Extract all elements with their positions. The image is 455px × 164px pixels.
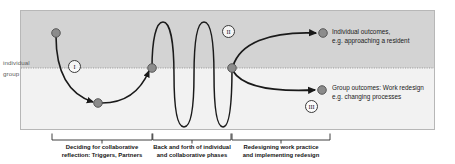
phase-caption-1: Deciding for collaborative reflection: T… [52,143,152,159]
phase-3-line2: and implementing redesign [231,151,331,159]
phase-3-line1: Redesigning work practice [231,143,331,151]
band-label-group: group [3,70,19,78]
bracket-phase-2 [153,134,231,144]
outcome-individual-line1: Individual outcomes, [332,27,409,36]
phase-caption-2: Back and forth of individual and collabo… [150,143,234,159]
stage-marker-iii: III [305,100,318,113]
phase-caption-3: Redesigning work practice and implementi… [231,143,331,159]
stage-marker-i: I [68,60,81,73]
node-decide [94,99,103,108]
phase-1-line1: Deciding for collaborative [52,143,152,151]
bracket-phase-1 [52,134,152,144]
phase-2-line1: Back and forth of individual [150,143,234,151]
stage-marker-ii: II [222,25,235,38]
node-start [52,29,61,38]
node-exit-oscillation [228,64,237,73]
process-diagram: individual group I II III Individual out… [0,0,455,164]
node-enter-oscillation [148,64,157,73]
outcome-label-group: Group outcomes: Work redesign e.g. chang… [332,83,424,101]
node-individual-outcome [319,29,328,38]
phase-2-line2: and collaborative phases [150,151,234,159]
outcome-group-line2: e.g. changing processes [332,92,424,101]
bracket-phase-3 [232,134,330,144]
outcome-group-line1: Group outcomes: Work redesign [332,83,424,92]
band-label-individual: individual [3,59,30,67]
phase-1-line2: reflection: Triggers, Partners [52,151,152,159]
outcome-label-individual: Individual outcomes, e.g. approaching a … [332,27,409,45]
outcome-individual-line2: e.g. approaching a resident [332,36,409,45]
node-group-outcome [318,86,327,95]
